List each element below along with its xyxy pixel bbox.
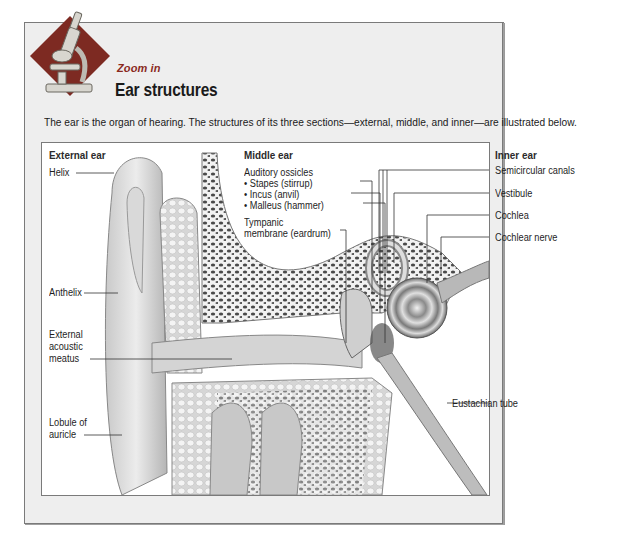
- label-stapes: • Stapes (stirrup): [244, 178, 313, 190]
- diagram-panel: External ear Middle ear Inner ear Helix …: [41, 142, 490, 496]
- section-label-middle-ear: Middle ear: [244, 149, 293, 161]
- label-cochlear-nerve: Cochlear nerve: [495, 232, 557, 244]
- label-meatus-line3: meatus: [49, 353, 79, 365]
- label-incus: • Incus (anvil): [244, 189, 299, 201]
- label-semicircular-canals: Semicircular canals: [495, 165, 575, 177]
- label-tympanic-line2: membrane (eardrum): [244, 228, 331, 240]
- label-anthelix: Anthelix: [49, 287, 82, 299]
- label-malleus: • Malleus (hammer): [244, 200, 324, 212]
- label-lobule-line2: auricle: [49, 429, 76, 441]
- section-kicker: Zoom in: [117, 62, 160, 74]
- label-cochlea: Cochlea: [495, 210, 529, 222]
- page-title: Ear structures: [115, 80, 218, 101]
- microscope-icon: [28, 10, 112, 100]
- label-tympanic-line1: Tympanic: [244, 217, 283, 229]
- section-label-inner-ear: Inner ear: [495, 149, 537, 161]
- label-lobule-line1: Lobule of: [49, 417, 87, 429]
- label-meatus-line1: External: [49, 329, 83, 341]
- label-auditory-ossicles: Auditory ossicles: [244, 167, 313, 179]
- intro-text: The ear is the organ of hearing. The str…: [44, 116, 577, 128]
- label-meatus-line2: acoustic: [49, 341, 83, 353]
- label-vestibule: Vestibule: [495, 188, 532, 200]
- section-label-external-ear: External ear: [49, 149, 106, 161]
- label-eustachian-tube: Eustachian tube: [452, 398, 518, 410]
- label-helix: Helix: [49, 167, 69, 179]
